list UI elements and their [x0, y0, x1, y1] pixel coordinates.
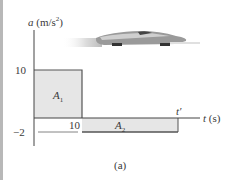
y-tick-minus-2: −2: [13, 127, 25, 138]
race-car-icon: [62, 31, 200, 47]
area-a2: [82, 118, 178, 132]
area-label-a2: A2: [115, 120, 125, 136]
x-axis-label: t (s): [203, 113, 220, 124]
figure-caption: (a): [114, 160, 126, 171]
x-tick-10: 10: [69, 120, 80, 131]
area-label-a1: A1: [53, 90, 63, 106]
y-axis-label: a (m/s2): [28, 14, 63, 28]
y-tick-10: 10: [15, 65, 26, 76]
x-marker-t-prime: t′: [176, 106, 181, 117]
